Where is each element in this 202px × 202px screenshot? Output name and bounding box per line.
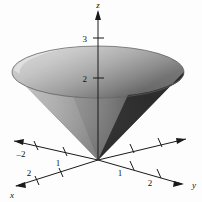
- axis-label-y: y: [191, 180, 196, 190]
- axis-negative-y-arrow: [14, 139, 24, 145]
- tick-label-z-3: 3: [83, 34, 88, 44]
- axis-label-x: x: [9, 190, 14, 200]
- tick-negative-y-1: [63, 147, 67, 156]
- tick-label-negative-y-2: –2: [16, 149, 26, 159]
- tick-label-z-2: 2: [83, 74, 88, 84]
- axis-y: 1 2 y: [98, 160, 196, 190]
- tick-label-negative-y-1: 1: [56, 158, 61, 168]
- tick-y-1: [130, 161, 134, 170]
- tick-x-2: [35, 176, 39, 185]
- axis-x-arrow: [15, 182, 26, 188]
- axis-negative-x-arrow: [176, 138, 186, 144]
- axis-z-arrow: [95, 10, 101, 20]
- axis-y-arrow: [173, 181, 184, 187]
- plot-canvas: –2 1: [0, 0, 202, 202]
- cone-surface-figure: –2 1: [0, 0, 202, 202]
- axis-label-z: z: [95, 0, 100, 10]
- tick-label-y-1: 1: [118, 168, 123, 178]
- axis-y-line: [98, 160, 182, 184]
- tick-label-x-2: 2: [27, 168, 32, 178]
- axis-x: 2 x: [9, 160, 98, 200]
- tick-label-y-2: 2: [148, 178, 153, 188]
